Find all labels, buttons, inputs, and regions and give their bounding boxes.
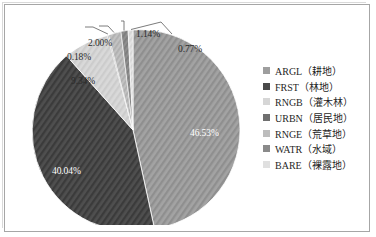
legend-item-rngb: RNGB（灌木林） (263, 94, 375, 110)
chart-frame: 46.53% 40.04% 9.34% 0.18% 2.00% 1.14% 0.… (4, 4, 370, 232)
data-label-rnge: 2.00% (88, 38, 112, 48)
leader-line-rnge (99, 26, 114, 33)
leader-line-watr (121, 21, 124, 31)
legend-item-label: RNGB（灌木林） (275, 94, 353, 109)
pie-chart-plot-area: 46.53% 40.04% 9.34% 0.18% 2.00% 1.14% 0.… (15, 15, 255, 225)
data-label-frst: 40.04% (52, 166, 81, 176)
legend-swatch-icon (263, 114, 270, 121)
data-label-rngb: 9.34% (71, 76, 95, 86)
legend-swatch-icon (263, 83, 270, 90)
legend-item-watr: WATR（水域） (263, 141, 375, 157)
legend-item-bare: BARE（裸露地） (263, 157, 375, 173)
legend-swatch-icon (263, 145, 270, 152)
pie-slice-argl (133, 30, 240, 225)
data-label-argl: 46.53% (190, 128, 219, 138)
chart-legend: ARGL（耕地） FRST（林地） RNGB（灌木林） URBN（居民地） RN… (263, 63, 375, 172)
legend-item-label: FRST（林地） (275, 79, 339, 94)
data-label-bare: 0.77% (178, 44, 202, 54)
pie-chart-svg (15, 15, 255, 225)
legend-item-argl: ARGL（耕地） (263, 63, 375, 79)
legend-swatch-icon (263, 67, 270, 74)
legend-item-frst: FRST（林地） (263, 79, 375, 95)
legend-item-urbn: URBN（居民地） (263, 110, 375, 126)
legend-item-label: ARGL（耕地） (275, 63, 342, 78)
chart-screenshot: 46.53% 40.04% 9.34% 0.18% 2.00% 1.14% 0.… (0, 0, 376, 237)
data-label-urbn: 0.18% (67, 52, 91, 62)
leader-line-urbn (85, 27, 108, 34)
legend-item-label: RNGE（荒草地） (275, 126, 352, 141)
legend-swatch-icon (263, 98, 270, 105)
legend-swatch-icon (263, 161, 270, 168)
data-label-watr: 1.14% (136, 29, 160, 39)
legend-item-label: WATR（水域） (275, 141, 342, 156)
legend-swatch-icon (263, 130, 270, 137)
legend-item-label: BARE（裸露地） (275, 157, 352, 172)
legend-item-rnge: RNGE（荒草地） (263, 125, 375, 141)
legend-item-label: URBN（居民地） (275, 110, 353, 125)
